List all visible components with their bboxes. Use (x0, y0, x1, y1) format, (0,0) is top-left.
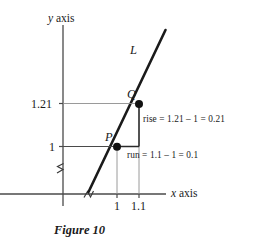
y-tick-label-1: 1 (49, 141, 55, 153)
point-P-label: P (105, 131, 113, 144)
line-L (89, 30, 166, 192)
rise-annotation: rise = 1.21 – 1 = 0.21 (143, 115, 225, 124)
x-axis-label: x axis (171, 188, 198, 200)
y-axis-label: y axis (48, 13, 75, 25)
figure-caption: Figure 10 (54, 223, 105, 238)
x-tick-label-1-1: 1.1 (131, 200, 146, 212)
y-axis-word: axis (56, 12, 75, 24)
line-L-label: L (130, 44, 137, 57)
x-axis-word: axis (179, 187, 198, 199)
figure-10-container: y axis x axis 1.21 1 1 1.1 P Q L rise = … (0, 0, 257, 245)
y-tick-label-1-21: 1.21 (31, 98, 52, 110)
point-P-dot (113, 143, 121, 151)
x-tick-label-1: 1 (114, 200, 120, 212)
point-Q-label: Q (127, 88, 136, 101)
point-Q-dot (135, 100, 143, 108)
run-annotation: run = 1.1 – 1 = 0.1 (127, 151, 198, 160)
